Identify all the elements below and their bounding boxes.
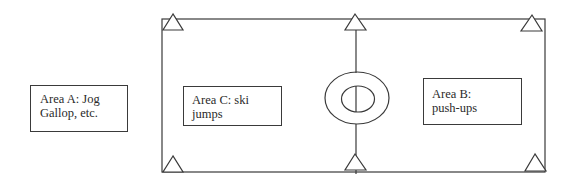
area-a-subtitle: Gallop, etc. (40, 106, 119, 120)
cone-triangle-icon-top-center (345, 14, 366, 30)
cone-triangle-icon-top-left (163, 14, 183, 30)
area-b-title: Area B: (432, 87, 513, 101)
cone-triangle-icon-bottom-right (525, 154, 546, 171)
cone-triangle-icon-bottom-center (345, 154, 366, 170)
area-b-subtitle: push-ups (432, 101, 513, 115)
area-c-box: Area C: ski jumps (183, 86, 282, 126)
area-a-title: Area A: Jog (40, 92, 119, 106)
cone-triangle-icon-top-right (521, 15, 542, 31)
cone-triangle-icon-bottom-left (163, 156, 183, 172)
area-c-title: Area C: ski (192, 93, 273, 107)
area-a-box: Area A: Jog Gallop, etc. (30, 85, 128, 132)
area-c-subtitle: jumps (192, 107, 273, 121)
center-inner-ring-icon (342, 86, 375, 112)
area-b-box: Area B: push-ups (423, 78, 522, 125)
center-outer-ring-icon (325, 72, 389, 124)
